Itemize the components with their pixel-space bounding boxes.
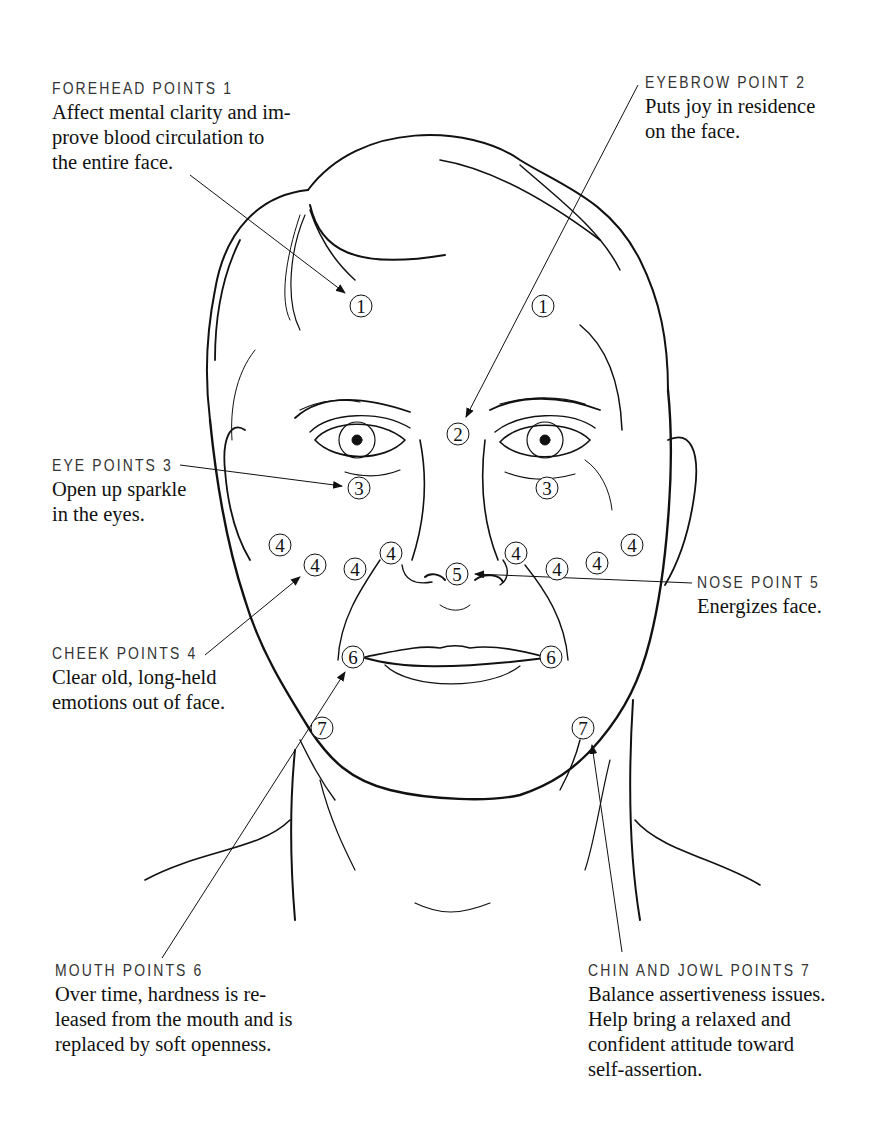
nose-bridge-right (483, 440, 498, 560)
point-marker-6: 6 (540, 646, 562, 668)
label-description: Over time, hardness is re- leased from t… (55, 982, 292, 1057)
label-description: Clear old, long-held emotions out of fac… (52, 665, 229, 715)
point-marker-1: 1 (532, 295, 554, 317)
point-marker-4: 4 (344, 558, 366, 580)
point-marker-4: 4 (269, 534, 291, 556)
svg-text:4: 4 (386, 543, 396, 564)
nostril-right (475, 575, 503, 582)
shoulder-right (635, 820, 760, 885)
label-description: Affect mental clarity and im- prove bloo… (52, 100, 291, 175)
svg-text:4: 4 (350, 559, 360, 580)
point-marker-4: 4 (304, 554, 326, 576)
svg-text:6: 6 (546, 647, 556, 668)
collarbone (415, 903, 490, 912)
label-heading: CHIN AND JOWL POINTS 7 (588, 960, 811, 982)
svg-text:2: 2 (453, 424, 463, 445)
nostril-left (402, 565, 432, 583)
point-marker-5: 5 (446, 563, 468, 585)
point-marker-6: 6 (342, 646, 364, 668)
svg-text:4: 4 (627, 535, 637, 556)
label-chin: CHIN AND JOWL POINTS 7 Balance assertive… (588, 960, 860, 1082)
svg-text:4: 4 (511, 543, 521, 564)
neck-right (630, 700, 640, 920)
point-marker-4: 4 (621, 534, 643, 556)
point-marker-7: 7 (572, 717, 594, 739)
label-description: Puts joy in residence on the face. (645, 94, 841, 144)
svg-text:4: 4 (592, 553, 602, 574)
neck-left (291, 750, 295, 920)
svg-text:7: 7 (578, 718, 588, 739)
face-outline-left (210, 420, 668, 799)
point-marker-3: 3 (536, 477, 558, 499)
point-marker-4: 4 (505, 542, 527, 564)
mouth (365, 646, 545, 657)
svg-text:6: 6 (348, 647, 358, 668)
label-cheek: CHEEK POINTS 4 Clear old, long-held emot… (52, 643, 229, 715)
svg-text:4: 4 (275, 535, 285, 556)
svg-text:3: 3 (542, 478, 552, 499)
label-eyebrow: EYEBROW POINT 2 Puts joy in residence on… (645, 72, 841, 144)
leader-eyebrow (466, 85, 638, 417)
point-marker-1: 1 (350, 295, 372, 317)
point-marker-4: 4 (586, 552, 608, 574)
nose-bridge-left (412, 440, 424, 560)
svg-text:1: 1 (356, 296, 366, 317)
point-marker-2: 2 (447, 423, 469, 445)
label-heading: NOSE POINT 5 (697, 572, 820, 594)
svg-text:7: 7 (317, 718, 327, 739)
eyebrow-right (490, 399, 600, 410)
label-heading: EYE POINTS 3 (52, 455, 173, 477)
svg-text:1: 1 (538, 296, 548, 317)
label-nose: NOSE POINT 5 Energizes face. (697, 572, 847, 619)
svg-text:3: 3 (354, 478, 364, 499)
point-markers: 112334444444456677 (269, 295, 643, 739)
leader-chin (592, 745, 622, 952)
svg-text:4: 4 (310, 555, 320, 576)
point-marker-7: 7 (311, 717, 333, 739)
label-description: Open up sparkle in the eyes. (52, 477, 199, 527)
label-heading: MOUTH POINTS 6 (55, 960, 250, 982)
label-eye: EYE POINTS 3 Open up sparkle in the eyes… (52, 455, 199, 527)
svg-text:4: 4 (552, 559, 562, 580)
svg-text:5: 5 (452, 564, 462, 585)
leader-eye (180, 465, 342, 486)
label-forehead: FOREHEAD POINTS 1 Affect mental clarity … (52, 78, 291, 175)
label-mouth: MOUTH POINTS 6 Over time, hardness is re… (55, 960, 292, 1057)
point-marker-4: 4 (380, 542, 402, 564)
label-description: Balance assertiveness issues. Help bring… (588, 982, 860, 1082)
label-heading: CHEEK POINTS 4 (52, 643, 197, 665)
label-heading: EYEBROW POINT 2 (645, 72, 806, 94)
point-marker-4: 4 (546, 558, 568, 580)
label-heading: FOREHEAD POINTS 1 (52, 78, 248, 100)
leader-nose (475, 574, 692, 583)
label-description: Energizes face. (697, 594, 847, 619)
point-marker-3: 3 (348, 477, 370, 499)
